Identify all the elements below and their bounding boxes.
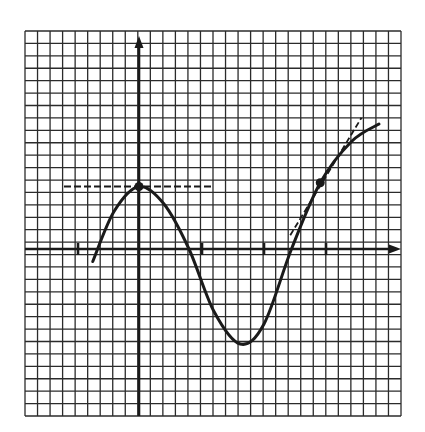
x-axis-arrow-icon — [389, 245, 401, 254]
y-axis-arrow-icon — [135, 36, 144, 48]
local-max-point — [135, 182, 144, 191]
grid-paper — [25, 31, 401, 416]
function-curve — [93, 124, 379, 344]
tangent-point — [316, 178, 325, 187]
function-graph — [0, 0, 425, 432]
